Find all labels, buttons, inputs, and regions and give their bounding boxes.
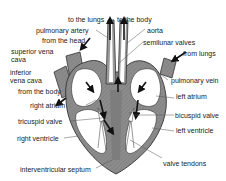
label-superior-vena-cava-line1: superior vena [11,48,53,55]
label-bicuspid-valve: bicuspid valve [175,112,219,119]
interventricular-septum-shape [110,90,122,160]
label-superior-vena-cava-line2: cava [11,56,26,63]
label-valve-tendons: valve tendons [163,160,206,167]
label-right-atrium: right atrium [30,102,65,109]
label-pulmonary-vein: pulmonary vein [171,77,218,84]
label-semilunar-valves: semilunar valves [143,39,195,46]
label-left-atrium: left atrium [176,93,207,100]
label-tricuspid-valve: tricuspid valve [18,118,62,125]
label-inferior-vena-cava-line1: inferior [10,69,31,76]
label-from-the-head: from the head [42,37,85,44]
pulmonary-vein [160,58,176,78]
label-from-lungs: from lungs [183,50,216,57]
label-to-the-lungs: to the lungs [68,16,104,23]
label-from-the-body: from the body [18,88,61,95]
label-right-ventricle: right ventricle [17,135,59,142]
label-inferior-vena-cava-line2: vena cava [10,77,42,84]
heart-diagram: to the lungs to the body pulmonary arter… [0,0,226,181]
label-pulmonary-artery: pulmonary artery [36,27,89,34]
label-left-ventricle: left ventricle [176,127,213,134]
label-aorta: aorta [147,27,163,34]
label-to-the-body: to the body [117,16,152,23]
label-interventricular-septum: interventricular septum [20,166,91,173]
